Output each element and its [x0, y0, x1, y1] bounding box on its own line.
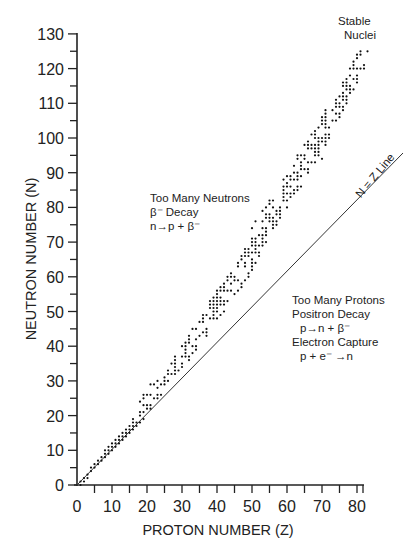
- y-tick-label: 110: [38, 95, 64, 112]
- x-axis: 01020304050607080: [73, 485, 366, 515]
- y-tick-label: 30: [46, 373, 64, 390]
- n-equals-z-label: N = Z Line: [353, 151, 397, 200]
- x-tick-label: 40: [208, 498, 226, 515]
- stable-nuclei-points: [79, 50, 368, 486]
- annotation-too-many-protons: Too Many Protons Positron Decay p→n + β⁻…: [292, 294, 385, 362]
- annotation-neutrons-line2: β⁻ Decay: [150, 206, 199, 218]
- chart-nuclide-stability: 0102030405060708090100110120130 01020304…: [0, 0, 415, 553]
- y-tick-label: 0: [55, 477, 64, 494]
- x-tick-label: 30: [173, 498, 191, 515]
- annotation-protons-line5: p + e⁻ →n: [300, 350, 353, 362]
- y-tick-label: 50: [46, 304, 64, 321]
- annotation-neutrons-line3: n→p + β⁻: [150, 220, 200, 232]
- annotation-stable-line1: Stable: [338, 15, 371, 27]
- annotation-protons-line2: Positron Decay: [292, 308, 370, 320]
- x-axis-title: PROTON NUMBER (Z): [142, 522, 293, 538]
- x-tick-label: 80: [348, 498, 366, 515]
- x-tick-label: 60: [278, 498, 296, 515]
- y-tick-label: 70: [46, 234, 64, 251]
- y-tick-label: 100: [37, 130, 64, 147]
- y-tick-label: 80: [46, 199, 64, 216]
- y-tick-label: 10: [46, 442, 64, 459]
- annotation-neutrons-line1: Too Many Neutrons: [150, 192, 250, 204]
- y-tick-label: 60: [46, 269, 64, 286]
- annotation-stable-line2: Nuclei: [344, 29, 376, 41]
- y-tick-label: 120: [37, 61, 64, 78]
- y-axis-ticks: 0102030405060708090100110120130: [37, 26, 77, 494]
- x-tick-label: 0: [73, 498, 82, 515]
- y-tick-label: 130: [37, 26, 64, 43]
- x-tick-label: 20: [138, 498, 156, 515]
- y-tick-label: 20: [46, 408, 64, 425]
- y-tick-label: 90: [46, 165, 64, 182]
- annotation-protons-line4: Electron Capture: [292, 336, 378, 348]
- x-axis-ticks: 01020304050607080: [73, 485, 366, 515]
- annotation-protons-line1: Too Many Protons: [292, 294, 385, 306]
- annotation-too-many-neutrons: Too Many Neutrons β⁻ Decay n→p + β⁻: [150, 192, 250, 232]
- y-axis-title: NEUTRON NUMBER (N): [23, 178, 39, 341]
- y-axis: 0102030405060708090100110120130: [37, 26, 77, 494]
- annotation-stable-nuclei: Stable Nuclei: [338, 15, 376, 41]
- y-tick-label: 40: [46, 338, 64, 355]
- x-tick-label: 10: [103, 498, 121, 515]
- annotation-protons-line3: p→n + β⁻: [300, 322, 350, 334]
- x-tick-label: 70: [313, 498, 331, 515]
- x-tick-label: 50: [243, 498, 261, 515]
